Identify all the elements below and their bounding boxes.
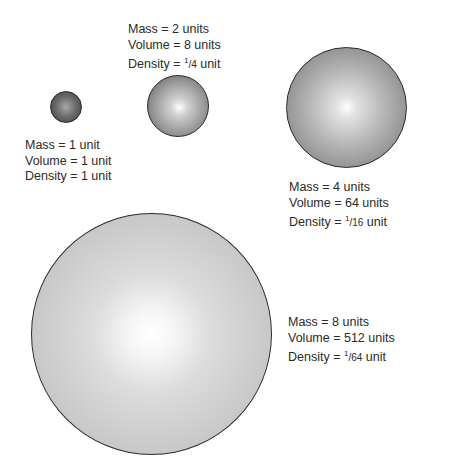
sphere-medium-label: Mass = 2 units Volume = 8 units Density …	[128, 22, 221, 73]
sphere-large-label: Mass = 4 units Volume = 64 units Density…	[289, 180, 389, 231]
volume-text: Volume = 1 unit	[25, 154, 112, 170]
mass-text: Mass = 4 units	[289, 180, 389, 196]
volume-text: Volume = 64 units	[289, 196, 389, 212]
sphere-large	[286, 47, 407, 168]
sphere-small-label: Mass = 1 unit Volume = 1 unit Density = …	[25, 138, 112, 185]
mass-text: Mass = 2 units	[128, 22, 221, 38]
sphere-largest-label: Mass = 8 units Volume = 512 units Densit…	[288, 315, 395, 366]
density-text: Density = 1 unit	[25, 169, 112, 185]
sphere-medium	[147, 75, 209, 137]
volume-text: Volume = 512 units	[288, 331, 395, 347]
density-text: Density = 1/64 unit	[288, 346, 395, 366]
density-text: Density = 1/16 unit	[289, 211, 389, 231]
mass-text: Mass = 1 unit	[25, 138, 112, 154]
mass-text: Mass = 8 units	[288, 315, 395, 331]
volume-text: Volume = 8 units	[128, 38, 221, 54]
sphere-small	[50, 91, 82, 123]
sphere-largest	[31, 213, 272, 455]
density-text: Density = 1/4 unit	[128, 53, 221, 73]
